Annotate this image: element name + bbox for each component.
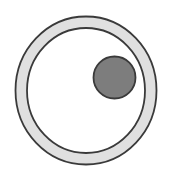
inner-disc (94, 57, 136, 99)
ring-diagram-svg (0, 0, 172, 181)
figure-canvas (0, 0, 172, 181)
